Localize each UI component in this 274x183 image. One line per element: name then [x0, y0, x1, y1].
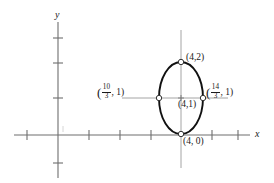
label-center-point: (4,1) — [178, 100, 196, 110]
left-label-tail: , 1) — [112, 87, 125, 97]
label-bottom-vertex: (4, 0) — [183, 137, 204, 147]
right-fraction-denominator: 3 — [211, 93, 220, 101]
point-top-vertex — [178, 59, 183, 64]
point-left-vertex — [156, 95, 161, 100]
point-right-vertex — [200, 95, 205, 100]
label-top-vertex: (4,2) — [186, 53, 204, 63]
figure-canvas: y x (4,2) (4, 0) (4,1) (103, 1) (143, 1) — [0, 0, 274, 183]
label-right-vertex: (143, 1) — [206, 84, 233, 100]
x-axis-label: x — [255, 129, 259, 139]
left-fraction-denominator: 3 — [102, 93, 111, 101]
y-axis-label: y — [55, 10, 59, 20]
label-left-vertex: (103, 1) — [97, 84, 124, 100]
right-paren-open: ( — [206, 85, 210, 100]
left-fraction: 103 — [102, 84, 111, 100]
right-fraction: 143 — [211, 84, 220, 100]
left-paren-open: ( — [97, 85, 101, 100]
right-label-tail: , 1) — [221, 87, 234, 97]
